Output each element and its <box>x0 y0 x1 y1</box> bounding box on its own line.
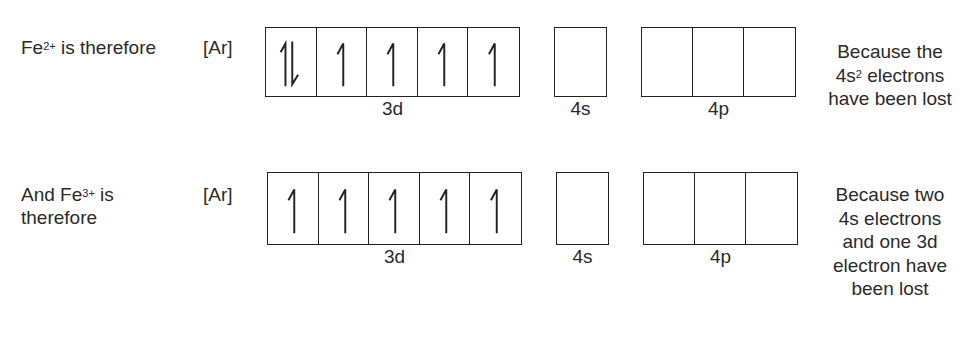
fe2-3d-box-3 <box>367 28 418 96</box>
fe3-label-line-1: And Fe3+ is <box>21 183 114 206</box>
fe2-4p-box-2 <box>693 28 744 96</box>
fe3-explanation-line-3: and one 3d <box>815 230 965 254</box>
fe2-core-argon: [Ar] <box>203 36 233 59</box>
up-harpoon-icon <box>369 173 419 244</box>
fe3-3d-box-5 <box>470 173 521 244</box>
up-harpoon-icon <box>418 28 468 96</box>
up-harpoon-icon <box>470 173 521 244</box>
fe3-core-argon: [Ar] <box>203 183 233 206</box>
fe2-3d-box-2 <box>317 28 368 96</box>
fe3-4p-box-1 <box>644 173 695 244</box>
fe2-label-element: Fe <box>21 37 43 58</box>
fe3-label-suffix: is <box>95 184 114 205</box>
fe3-4s-box <box>557 173 608 244</box>
fe2-explanation-line-2: 4s2 electrons <box>815 64 965 88</box>
up-harpoon-icon <box>468 28 519 96</box>
up-harpoon-icon <box>367 28 417 96</box>
fe2-explanation-4s: 4s <box>836 65 856 86</box>
fe3-4p-orbitals <box>643 172 798 245</box>
fe3-3d-orbitals <box>267 172 522 245</box>
fe3-explanation: Because two 4s electrons and one 3d elec… <box>815 183 965 301</box>
fe3-label-element: And Fe <box>21 184 82 205</box>
fe3-3d-label: 3d <box>267 246 522 268</box>
fe3-3d-box-1 <box>268 173 319 244</box>
up-harpoon-icon <box>317 28 367 96</box>
fe2-explanation-line-3: have been lost <box>815 87 965 111</box>
fe2-4s-orbital <box>554 27 607 97</box>
fe2-explanation-superscript: 2 <box>856 68 862 80</box>
fe2-4p-box-3 <box>744 28 795 96</box>
fe3-4p-box-3 <box>746 173 797 244</box>
fe3-label: And Fe3+ is therefore <box>21 183 114 229</box>
fe3-charge: 3+ <box>82 187 95 199</box>
fe2-3d-box-4 <box>418 28 469 96</box>
fe3-4p-box-2 <box>695 173 746 244</box>
fe2-4s-box <box>555 28 606 96</box>
fe3-3d-box-4 <box>420 173 471 244</box>
up-harpoon-icon <box>420 173 470 244</box>
fe2-charge: 2+ <box>43 40 56 52</box>
fe3-explanation-line-1: Because two <box>815 183 965 207</box>
fe2-explanation-line-1: Because the <box>815 40 965 64</box>
up-harpoon-icon <box>268 173 318 244</box>
up-down-harpoon-icon <box>266 28 316 96</box>
fe3-explanation-line-4: electron have <box>815 254 965 278</box>
fe3-3d-box-3 <box>369 173 420 244</box>
fe2-explanation-electrons: electrons <box>862 65 944 86</box>
fe3-4s-orbital <box>556 172 609 245</box>
fe2-label-suffix: is therefore <box>56 37 156 58</box>
fe2-label: Fe2+ is therefore <box>21 36 156 59</box>
fe3-explanation-line-2: 4s electrons <box>815 207 965 231</box>
fe2-4p-orbitals <box>641 27 796 97</box>
fe3-3d-box-2 <box>319 173 370 244</box>
fe2-4p-box-1 <box>642 28 693 96</box>
fe2-4s-label: 4s <box>554 98 607 120</box>
up-harpoon-icon <box>319 173 369 244</box>
fe3-explanation-line-5: been lost <box>815 277 965 301</box>
fe3-4p-label: 4p <box>643 246 798 268</box>
fe2-3d-label: 3d <box>265 98 520 120</box>
fe2-4p-label: 4p <box>641 98 796 120</box>
fe3-4s-label: 4s <box>556 246 609 268</box>
fe3-label-line-2: therefore <box>21 206 114 229</box>
fe2-3d-orbitals <box>265 27 520 97</box>
fe2-3d-box-1 <box>266 28 317 96</box>
fe2-3d-box-5 <box>468 28 519 96</box>
fe2-explanation: Because the 4s2 electrons have been lost <box>815 40 965 111</box>
